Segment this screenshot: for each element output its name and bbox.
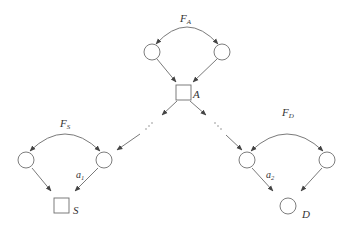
left-arc-label: FS [59,117,71,131]
branch-edges [117,101,242,150]
sink-label-S: S [73,204,79,216]
right-left-node [239,152,255,168]
network-diagram: FA A FS a1 S FD [0,0,351,229]
left-feedback-arc [30,134,100,151]
edge-label-a1: a1 [76,169,84,181]
edge-right-right-to-D [301,168,322,191]
right-group: FD a2 D [239,106,335,220]
left-group: FS a1 S [18,117,112,216]
right-feedback-arc [251,134,323,151]
edge-A-left-branch [162,101,177,115]
sink-label-D: D [301,208,310,220]
diagram-svg: FA A FS a1 S FD [0,0,351,229]
edge-A-right-branch [190,101,206,115]
sink-label-A: A [192,88,200,100]
top-right-node [214,44,230,60]
right-arc-label: FD [281,106,294,120]
top-group: FA A [144,12,230,100]
edge-label-a2: a2 [266,169,275,181]
edge-top-right-to-A [193,59,217,82]
edge-top-left-to-A [157,59,176,82]
top-left-node [144,44,160,60]
edge-left-left-to-S [32,168,51,191]
top-arc-label: FA [179,12,192,26]
left-right-node [96,152,112,168]
left-left-node [18,152,34,168]
edge-left-branch-to-node [117,134,140,150]
edge-right-branch-to-node [226,135,242,150]
top-feedback-arc [156,27,218,44]
sink-node-A [176,85,191,100]
sink-node-S [54,198,69,213]
right-right-node [319,152,335,168]
sink-node-D [280,198,296,214]
